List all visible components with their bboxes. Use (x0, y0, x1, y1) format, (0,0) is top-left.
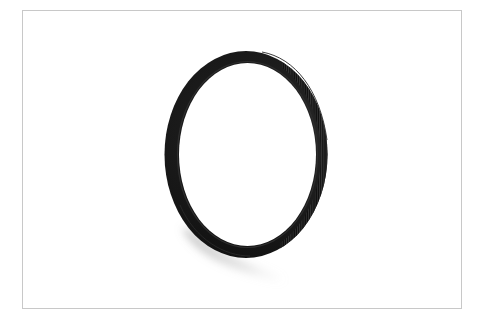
filter-ring (0, 0, 484, 323)
filter-ring-photo (0, 0, 484, 323)
photo-canvas (0, 0, 484, 323)
